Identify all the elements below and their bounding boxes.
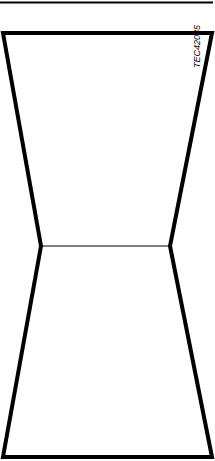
diagram-canvas: [0, 0, 215, 461]
figure-id-label: TEC42035: [192, 25, 202, 68]
hourglass-outline: [3, 33, 212, 457]
